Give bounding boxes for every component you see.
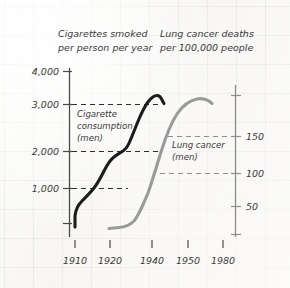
right-axis-tick-label-50: 50 [246, 201, 258, 212]
left-axis-title-line2: per person per year [57, 42, 153, 53]
right-axis-tick-label-100: 100 [246, 168, 264, 179]
x-axis-tick-label-1940: 1940 [140, 255, 164, 266]
right-axis-title-line1: Lung cancer deaths [160, 28, 254, 39]
x-axis-tick-label-1910: 1910 [63, 255, 87, 266]
left-axis-tick-label-2000: 2,000 [32, 146, 59, 157]
annotation-lung-cancer-line2: (men) [172, 152, 198, 162]
annotation-cigarette-line2: consumption [77, 121, 133, 131]
right-axis-title-line2: per 100,000 people [159, 42, 253, 53]
x-axis-tick-label-1950: 1950 [176, 255, 200, 266]
chart-figure: Cigarettes smoked per person per year Lu… [0, 0, 290, 288]
left-axis-title-line1: Cigarettes smoked [58, 28, 149, 39]
annotation-cigarette-line1: Cigarette [77, 109, 117, 119]
right-axis-tick-label-150: 150 [246, 131, 264, 142]
annotation-cigarette-line3: (men) [77, 133, 103, 143]
annotation-lung-cancer-line1: Lung cancer [172, 140, 225, 150]
chart-canvas: Cigarettes smoked per person per year Lu… [0, 0, 290, 288]
x-axis-tick-label-1920: 1920 [98, 255, 122, 266]
left-axis-tick-label-4000: 4,000 [32, 66, 59, 77]
left-axis-tick-label-3000: 3,000 [32, 99, 59, 110]
left-axis-tick-label-1000: 1,000 [32, 183, 59, 194]
x-axis-tick-label-1980: 1980 [211, 255, 235, 266]
series-line-lung-cancer [109, 99, 212, 229]
